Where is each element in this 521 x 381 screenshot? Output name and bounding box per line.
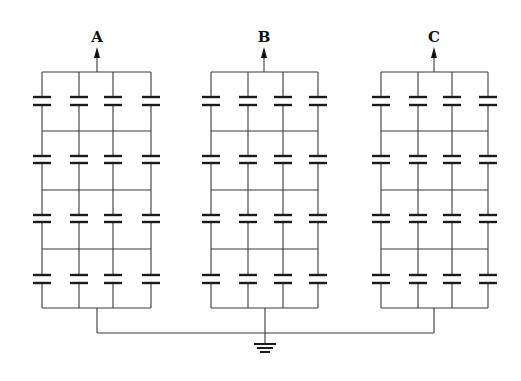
capacitor-icon xyxy=(409,156,427,163)
capacitor-icon xyxy=(309,275,327,283)
capacitor-icon xyxy=(479,215,497,222)
capacitor-icon xyxy=(142,156,160,163)
capacitor-icon xyxy=(239,275,257,283)
capacitor-icon xyxy=(239,97,257,105)
capacitor-icon xyxy=(104,275,122,283)
capacitor-icon xyxy=(274,215,292,222)
capacitor-icon xyxy=(202,275,220,283)
capacitor-icon xyxy=(33,275,51,283)
phase-bank-c: C xyxy=(372,28,497,333)
capacitor-bank-diagram: ABC xyxy=(0,0,521,381)
capacitor-icon xyxy=(274,97,292,105)
capacitor-icon xyxy=(239,215,257,222)
phase-label: B xyxy=(258,28,271,46)
capacitor-icon xyxy=(309,156,327,163)
capacitor-icon xyxy=(239,156,257,163)
arrow-up-icon xyxy=(261,47,267,58)
capacitor-icon xyxy=(70,215,88,222)
phase-bank-a: A xyxy=(33,28,160,333)
capacitor-icon xyxy=(372,215,390,222)
capacitor-icon xyxy=(443,156,461,163)
capacitor-icon xyxy=(33,156,51,163)
capacitor-icon xyxy=(372,275,390,283)
phase-label: C xyxy=(428,28,440,46)
capacitor-icon xyxy=(142,275,160,283)
phase-label: A xyxy=(90,28,103,46)
capacitor-icon xyxy=(443,97,461,105)
capacitor-icon xyxy=(142,215,160,222)
capacitor-icon xyxy=(443,275,461,283)
capacitor-icon xyxy=(274,156,292,163)
capacitor-icon xyxy=(479,275,497,283)
capacitor-icon xyxy=(274,275,292,283)
capacitor-icon xyxy=(443,215,461,222)
capacitor-icon xyxy=(202,156,220,163)
capacitor-icon xyxy=(479,156,497,163)
capacitor-icon xyxy=(202,215,220,222)
capacitor-icon xyxy=(409,275,427,283)
capacitor-icon xyxy=(142,97,160,105)
phase-bank-b: B xyxy=(202,28,327,333)
capacitor-icon xyxy=(33,215,51,222)
capacitor-icon xyxy=(202,97,220,105)
capacitor-icon xyxy=(309,215,327,222)
capacitor-icon xyxy=(409,215,427,222)
arrow-up-icon xyxy=(94,47,100,58)
capacitor-icon xyxy=(479,97,497,105)
arrow-up-icon xyxy=(431,47,437,58)
capacitor-icon xyxy=(33,97,51,105)
capacitor-icon xyxy=(104,97,122,105)
capacitor-icon xyxy=(104,156,122,163)
ground-icon xyxy=(254,333,276,352)
capacitor-icon xyxy=(372,156,390,163)
capacitor-icon xyxy=(70,97,88,105)
capacitor-icon xyxy=(372,97,390,105)
capacitor-icon xyxy=(309,97,327,105)
capacitor-icon xyxy=(104,215,122,222)
capacitor-icon xyxy=(70,275,88,283)
capacitor-icon xyxy=(70,156,88,163)
capacitor-icon xyxy=(409,97,427,105)
